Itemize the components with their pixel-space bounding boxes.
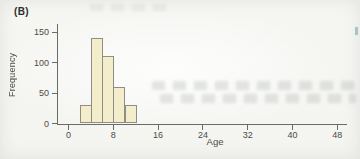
x-tick-label: 16: [148, 130, 168, 140]
y-tick-label: 100: [25, 58, 49, 68]
page-edge-print-fragment: [355, 27, 358, 35]
y-axis-line: [57, 24, 58, 125]
x-tick-label: 48: [327, 130, 347, 140]
histogram-bar: [125, 105, 137, 123]
x-tick-label: 0: [59, 130, 79, 140]
page-showthrough-line-3: [90, 4, 170, 11]
y-tick-mark: [52, 62, 57, 63]
y-tick-mark: [52, 123, 57, 124]
figure-panel: (B) Frequency 081624324048 050100150 Age: [0, 0, 360, 159]
y-tick-mark: [52, 93, 57, 94]
y-tick-label: 150: [25, 27, 49, 37]
panel-label: (B): [14, 6, 29, 17]
y-tick-label: 50: [25, 88, 49, 98]
page-showthrough-line-2: [160, 94, 356, 103]
x-tick-label: 8: [103, 130, 123, 140]
x-axis-title: Age: [185, 136, 245, 147]
x-tick-label: 40: [283, 130, 303, 140]
page-showthrough-line-1: [152, 81, 356, 90]
y-tick-label: 0: [25, 119, 49, 129]
y-tick-mark: [52, 32, 57, 33]
y-axis-title: Frequency: [7, 44, 20, 106]
